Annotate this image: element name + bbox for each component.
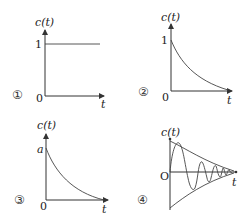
panel-3: c(t) a 0 t ③ [14,119,108,216]
panel-marker: ④ [137,193,148,207]
y-axis-label: c(t) [35,16,54,29]
x-axis-label: t [101,98,106,111]
damped-oscillation-curve [170,143,232,190]
y-tick-label: a [37,143,44,156]
y-tick-label: 1 [161,34,168,47]
origin-label: 0 [40,200,47,213]
y-tick-label: 1 [35,38,42,51]
x-axis-end-dot [235,171,238,174]
panel-marker: ③ [14,193,25,207]
decay-curve [171,40,228,90]
origin-label: O [160,170,169,183]
panel-marker: ① [12,88,23,102]
envelope-upper [170,141,234,171]
envelope-lower [170,173,234,208]
panel-marker: ② [138,85,149,99]
origin-label: 0 [162,91,169,104]
x-axis-label: t [227,94,232,107]
y-axis-label: c(t) [37,119,56,132]
panel-2: c(t) 1 0 t ② [138,11,232,107]
panel-4: c(t) O t ④ [137,126,237,210]
y-axis-label: c(t) [161,11,180,24]
x-axis-label: t [102,203,107,216]
y-axis-label: c(t) [161,126,180,139]
panel-1: c(t) 1 0 t ① [12,16,106,111]
decay-curve [46,148,104,200]
figure-canvas: c(t) 1 0 t ① c(t) 1 0 t ② c(t) a 0 t ③ c… [0,0,249,224]
origin-label: 0 [36,92,43,105]
x-axis-label: t [232,176,237,189]
